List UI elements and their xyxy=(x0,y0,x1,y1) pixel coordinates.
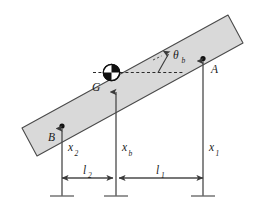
cg-label: G xyxy=(92,81,101,93)
dimension-label-l2-subscript: 2 xyxy=(88,171,92,180)
support-label-a: A xyxy=(210,63,219,75)
diagram-canvas: θ b G A B x 2 x b x xyxy=(0,0,257,214)
coordinate-label-xb-subscript: b xyxy=(129,149,133,158)
angle-label: θ xyxy=(173,49,179,61)
rigid-beam xyxy=(22,15,243,156)
center-of-gravity-icon xyxy=(103,64,120,81)
coordinate-label-xb: x xyxy=(121,141,128,153)
angle-label-subscript: b xyxy=(182,56,186,65)
dimension-label-l2: l xyxy=(83,164,86,176)
coordinate-label-x1: x xyxy=(208,141,215,153)
beam-body xyxy=(22,15,243,156)
coordinate-label-x2-subscript: 2 xyxy=(75,149,79,158)
coordinate-label-x2: x xyxy=(67,141,74,153)
dimension-label-l1-subscript: 1 xyxy=(161,171,165,180)
support-point-a-dot xyxy=(200,56,205,61)
support-point-b-dot xyxy=(59,123,64,128)
beam-diagram-figure: θ b G A B x 2 x b x xyxy=(0,0,257,214)
support-label-b: B xyxy=(48,131,55,143)
dimension-label-l1: l xyxy=(156,164,159,176)
coordinate-label-x1-subscript: 1 xyxy=(216,149,220,158)
